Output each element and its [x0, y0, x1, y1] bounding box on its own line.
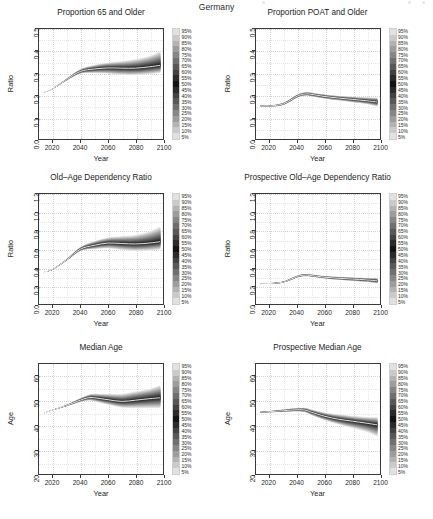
panel-prospective-old-age-dependency-ratio: Prospective Old–Age Dependency Ratio0.00… [217, 173, 433, 346]
y-axis-tick-mark [35, 475, 38, 476]
y-axis-tick-label: 1.0 [249, 212, 256, 221]
x-axis-tick-mark [353, 475, 354, 478]
fan-chart-bands [256, 29, 380, 139]
x-axis-tick-mark [136, 475, 137, 478]
y-axis-tick-mark [35, 212, 38, 213]
fan-chart-bands [256, 194, 380, 304]
x-axis-tick-mark [80, 140, 81, 143]
y-axis-tick-label: 0.4 [33, 268, 40, 277]
y-axis-tick-label: 0.1 [33, 118, 40, 127]
panel-title: Old–Age Dependency Ratio [8, 173, 194, 182]
x-axis-tick-label: 2020 [45, 144, 60, 151]
x-axis-tick-label: 2020 [261, 479, 276, 486]
y-axis-tick-mark [35, 50, 38, 51]
y-axis-tick-label: 50 [33, 400, 40, 407]
x-axis-tick-mark [297, 140, 298, 143]
fan-chart-bands [39, 194, 163, 304]
y-axis-tick-mark [35, 28, 38, 29]
legend-gradient-bar [389, 193, 397, 305]
x-axis-tick-mark [269, 140, 270, 143]
y-axis-tick-label: 60 [249, 375, 256, 382]
legend-label: 5% [398, 300, 405, 305]
x-axis-tick-label: 2060 [101, 144, 116, 151]
x-axis-tick-mark [353, 305, 354, 308]
y-axis-tick-mark [252, 249, 255, 250]
y-axis-tick-mark [35, 400, 38, 401]
y-axis-tick-mark [252, 73, 255, 74]
y-axis-tick-mark [252, 140, 255, 141]
x-axis-tick-label: 2060 [101, 479, 116, 486]
figure-canvas: Germany Proportion 65 and Older0.00.10.2… [0, 0, 433, 519]
y-axis-tick-mark [252, 193, 255, 194]
x-axis-tick-mark [297, 475, 298, 478]
x-axis-label: Year [38, 319, 164, 328]
y-axis-tick-label: 0.2 [33, 286, 40, 295]
panel-proportion-65-and-older: Proportion 65 and Older0.00.10.20.30.40.… [0, 8, 217, 181]
y-axis-tick-label: 0.2 [249, 95, 256, 104]
x-axis-tick-label: 2060 [317, 479, 332, 486]
panel-title: Proportion 65 and Older [8, 8, 194, 17]
legend-gradient-bar [389, 28, 397, 140]
x-axis-label: Year [255, 319, 381, 328]
x-axis-tick-label: 2080 [345, 309, 360, 316]
y-axis-tick-label: 0.3 [249, 73, 256, 82]
x-axis-tick-label: 2020 [45, 309, 60, 316]
x-axis-tick-label: 2080 [345, 479, 360, 486]
y-axis-tick-label: 40 [249, 425, 256, 432]
fan-band [43, 230, 160, 273]
y-axis-tick-mark [35, 95, 38, 96]
x-axis-tick-mark [136, 140, 137, 143]
panel-proportion-poat-and-older: Proportion POAT and Older0.00.10.20.30.4… [217, 8, 433, 181]
y-axis-tick-label: 50 [249, 400, 256, 407]
y-axis-tick-label: 0.5 [249, 28, 256, 37]
y-axis-tick-mark [35, 425, 38, 426]
y-axis-tick-label: 1.0 [33, 212, 40, 221]
x-axis-tick-label: 2080 [345, 144, 360, 151]
x-axis-tick-mark [164, 140, 165, 143]
y-axis-tick-mark [252, 475, 255, 476]
probability-legend: 95%90%85%80%75%70%65%60%55%50%45%40%35%3… [389, 363, 397, 475]
panel-median-age: Median Age203040506020202040206020802100… [0, 343, 217, 516]
x-axis-tick-mark [108, 475, 109, 478]
y-axis-tick-mark [35, 193, 38, 194]
x-axis-tick-label: 2020 [261, 309, 276, 316]
y-axis-tick-label: 0.0 [33, 140, 40, 149]
x-axis-tick-label: 2100 [373, 309, 388, 316]
y-axis-tick-mark [252, 212, 255, 213]
legend-label: 5% [182, 135, 189, 140]
legend-gradient-bar [172, 28, 180, 140]
y-axis-tick-label: 60 [33, 375, 40, 382]
y-axis-tick-mark [35, 450, 38, 451]
fan-chart-bands [39, 29, 163, 139]
x-axis-tick-label: 2040 [73, 479, 88, 486]
x-axis-tick-label: 2060 [317, 144, 332, 151]
y-axis-tick-label: 0.2 [33, 95, 40, 104]
x-axis-tick-mark [80, 475, 81, 478]
y-axis-tick-mark [252, 450, 255, 451]
y-axis-tick-label: 0.0 [249, 305, 256, 314]
x-axis-tick-label: 2060 [101, 309, 116, 316]
y-axis-tick-label: 0.3 [33, 73, 40, 82]
x-axis-tick-label: 2080 [129, 479, 144, 486]
legend-gradient-bar [172, 193, 180, 305]
y-axis-tick-label: 0.8 [249, 230, 256, 239]
y-axis-tick-mark [252, 118, 255, 119]
y-axis-tick-mark [35, 73, 38, 74]
x-axis-tick-mark [52, 305, 53, 308]
plot-area [38, 28, 164, 140]
y-axis-tick-label: 0.6 [249, 249, 256, 258]
y-axis-tick-mark [252, 230, 255, 231]
x-axis-tick-mark [164, 475, 165, 478]
x-axis-tick-mark [108, 305, 109, 308]
y-axis-tick-mark [35, 118, 38, 119]
y-axis-label: Age [222, 399, 231, 439]
x-axis-tick-label: 2040 [289, 479, 304, 486]
x-axis-tick-mark [325, 475, 326, 478]
y-axis-tick-label: 0.6 [33, 249, 40, 258]
probability-legend: 95%90%85%80%75%70%65%60%55%50%45%40%35%3… [172, 28, 180, 140]
x-axis-label: Year [38, 489, 164, 498]
x-axis-tick-mark [52, 140, 53, 143]
y-axis-tick-label: 0.0 [249, 140, 256, 149]
y-axis-tick-mark [252, 305, 255, 306]
plot-area [38, 363, 164, 475]
